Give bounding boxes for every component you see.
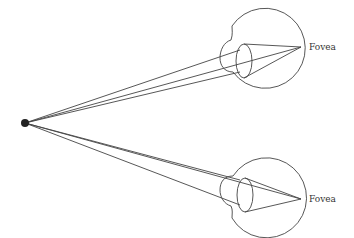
upper-lens-top — [244, 44, 301, 47]
upper-lens-bottom — [244, 47, 301, 78]
fixation-point — [21, 119, 29, 127]
upper-ray-3 — [25, 72, 240, 123]
lower-eyeball — [220, 158, 307, 238]
lower-eye — [25, 123, 307, 238]
lower-ray-2 — [25, 123, 301, 199]
upper-eyeball — [220, 8, 305, 88]
upper-ray-1 — [25, 47, 301, 123]
binocular-vision-diagram: Fovea Fovea — [0, 0, 354, 238]
lower-lens — [237, 178, 253, 212]
lower-ray-3 — [25, 123, 240, 205]
upper-eye — [25, 8, 305, 123]
upper-ray-2 — [25, 50, 240, 123]
lower-fovea-label: Fovea — [309, 194, 337, 204]
lower-lens-bottom — [245, 199, 301, 212]
upper-fovea-label: Fovea — [309, 42, 337, 52]
